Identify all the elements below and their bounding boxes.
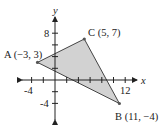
label-point-c: C (5, 7) [88,27,121,39]
y-axis-label: y [52,5,58,16]
x-tick-label-12: 12 [120,85,131,96]
label-point-a: A (−3, 3) [4,49,43,61]
point-b [118,102,121,105]
y-tick-label-neg4: -4 [40,98,49,109]
point-c [83,37,86,40]
x-axis-label: x [140,75,146,86]
coordinate-plane: x y -4 12 8 -4 A (−3, 3) C (5, 7) B (11,… [0,0,167,128]
x-tick-label-neg4: -4 [24,85,33,96]
label-point-b: B (11, −4) [115,111,159,123]
point-a [36,61,39,64]
triangle-abc [38,39,120,104]
y-tick-label-8: 8 [44,28,49,39]
